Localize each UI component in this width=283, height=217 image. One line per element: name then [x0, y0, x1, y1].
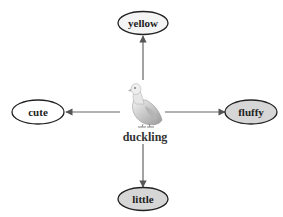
node-yellow-label: yellow [128, 17, 158, 29]
duckling-icon [128, 84, 162, 128]
node-little-label: little [132, 193, 153, 205]
node-cute[interactable]: cute [12, 100, 64, 124]
duckling-label: duckling [123, 130, 168, 144]
node-fluffy[interactable]: fluffy [225, 100, 277, 124]
concept-diagram: yellow cute fluffy little [0, 0, 283, 217]
node-yellow[interactable]: yellow [118, 12, 168, 35]
node-duckling[interactable]: duckling [123, 84, 168, 145]
node-little[interactable]: little [118, 188, 168, 211]
node-cute-label: cute [28, 106, 48, 118]
node-fluffy-label: fluffy [238, 106, 264, 118]
